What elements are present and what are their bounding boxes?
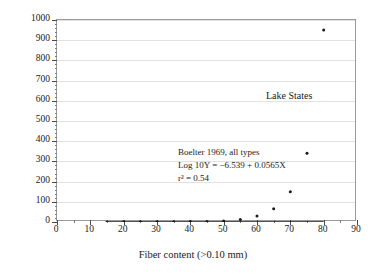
y-tick-label: 400	[36, 135, 50, 145]
y-tick-label: 0	[45, 216, 50, 226]
x-tick-label: 80	[318, 225, 328, 235]
regression-equation-text: Log 10Y = −6.539 + 0.0565X	[178, 159, 286, 172]
data-point	[156, 220, 159, 222]
x-tick-label: 40	[185, 225, 195, 235]
y-tick-label: 200	[36, 176, 50, 186]
data-point	[206, 220, 209, 222]
y-tick-label: 1000	[31, 14, 50, 24]
y-tick-label: 900	[36, 34, 50, 44]
x-tick-label: 50	[218, 225, 228, 235]
regression-annotation: Boelter 1969, all types Log 10Y = −6.539…	[178, 146, 286, 184]
plot-area	[56, 19, 356, 221]
y-tick-label: 300	[36, 156, 50, 166]
data-point	[106, 220, 109, 222]
data-point	[122, 220, 125, 222]
y-tick-label: 800	[36, 55, 50, 65]
x-tick-label: 70	[285, 225, 295, 235]
data-curve-lake-states	[57, 20, 357, 222]
y-tick-label: 600	[36, 95, 50, 105]
x-tick-label: 0	[54, 225, 59, 235]
x-tick-label: 20	[118, 225, 128, 235]
data-point	[272, 207, 275, 210]
y-tick-label: 500	[36, 115, 50, 125]
x-axis-title: Fiber content (>0.10 mm)	[0, 249, 386, 260]
x-tick-label: 10	[85, 225, 95, 235]
data-point	[256, 214, 259, 217]
data-point	[189, 220, 192, 222]
data-point	[239, 218, 242, 221]
y-tick-label: 700	[36, 75, 50, 85]
x-tick-label: 30	[151, 225, 161, 235]
chart-figure: 01002003004005006007008009001000 0102030…	[0, 0, 386, 274]
data-point	[172, 220, 175, 222]
series-label-lake-states: Lake States	[266, 90, 312, 101]
y-tick-label: 100	[36, 196, 50, 206]
data-point	[222, 219, 225, 222]
x-tick-label: 90	[351, 225, 361, 235]
x-tick-label: 60	[251, 225, 261, 235]
data-point	[306, 152, 309, 155]
regression-source-text: Boelter 1969, all types	[178, 146, 286, 159]
data-point	[322, 29, 325, 32]
data-point	[289, 190, 292, 193]
regression-r2-text: r² = 0.54	[178, 172, 286, 185]
data-point	[139, 220, 142, 222]
